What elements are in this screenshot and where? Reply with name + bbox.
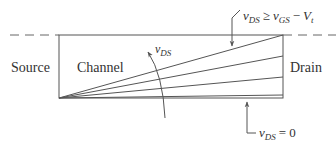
sweep-vds-label: vDS [155, 43, 171, 58]
source-label: Source [11, 61, 50, 75]
sweep-curved-arrow [148, 52, 165, 118]
zero-vds-label: vDS=0 [259, 126, 296, 142]
bottom-pointer-arrow [247, 102, 256, 133]
drain-label: Drain [290, 61, 322, 75]
channel-profile-3 [59, 77, 283, 98]
top-pointer-arrow [232, 10, 240, 46]
channel-label: Channel [77, 61, 124, 75]
pinchoff-condition-label: vDS≥vGS−Vt [243, 9, 314, 25]
